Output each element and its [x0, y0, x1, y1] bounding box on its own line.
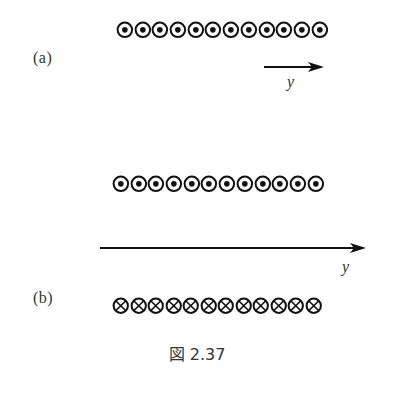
current-out-of-page-icon — [134, 21, 152, 39]
figure-2-37: (a) — [0, 0, 394, 395]
current-out-of-page-icon — [187, 21, 205, 39]
part-label-a: (a) — [33, 50, 52, 66]
current-out-of-page-icon — [151, 21, 169, 39]
current-into-page-icon — [252, 297, 270, 315]
current-into-page-icon — [235, 297, 253, 315]
current-row-b-out-of-page — [112, 175, 324, 193]
current-out-of-page-icon — [254, 175, 272, 193]
current-out-of-page-icon — [130, 175, 148, 193]
current-into-page-icon — [287, 297, 305, 315]
current-into-page-icon — [305, 297, 323, 315]
current-out-of-page-icon — [200, 175, 218, 193]
current-into-page-icon — [182, 297, 200, 315]
current-out-of-page-icon — [218, 175, 236, 193]
current-into-page-icon — [200, 297, 218, 315]
current-out-of-page-icon — [240, 21, 258, 39]
figure-caption: 図 2.37 — [0, 347, 394, 363]
current-out-of-page-icon — [311, 21, 329, 39]
current-out-of-page-icon — [204, 21, 222, 39]
current-into-page-icon — [270, 297, 288, 315]
current-out-of-page-icon — [258, 21, 276, 39]
current-out-of-page-icon — [275, 21, 293, 39]
y-axis-arrow-a — [262, 60, 326, 74]
current-out-of-page-icon — [307, 175, 325, 193]
current-into-page-icon — [165, 297, 183, 315]
current-out-of-page-icon — [222, 21, 240, 39]
current-into-page-icon — [130, 297, 148, 315]
current-out-of-page-icon — [147, 175, 165, 193]
current-out-of-page-icon — [165, 175, 183, 193]
y-axis-label-b: y — [342, 259, 349, 275]
current-out-of-page-icon — [236, 175, 254, 193]
current-out-of-page-icon — [116, 21, 134, 39]
current-into-page-icon — [112, 297, 130, 315]
part-label-b: (b) — [33, 290, 53, 306]
current-row-b-into-page — [112, 297, 322, 315]
current-out-of-page-icon — [112, 175, 130, 193]
y-axis-arrow-b — [98, 241, 370, 255]
current-into-page-icon — [147, 297, 165, 315]
y-axis-label-a: y — [287, 74, 294, 90]
current-into-page-icon — [217, 297, 235, 315]
current-out-of-page-icon — [271, 175, 289, 193]
current-row-a-out-of-page — [116, 21, 328, 39]
current-out-of-page-icon — [289, 175, 307, 193]
current-out-of-page-icon — [169, 21, 187, 39]
current-out-of-page-icon — [293, 21, 311, 39]
current-out-of-page-icon — [183, 175, 201, 193]
